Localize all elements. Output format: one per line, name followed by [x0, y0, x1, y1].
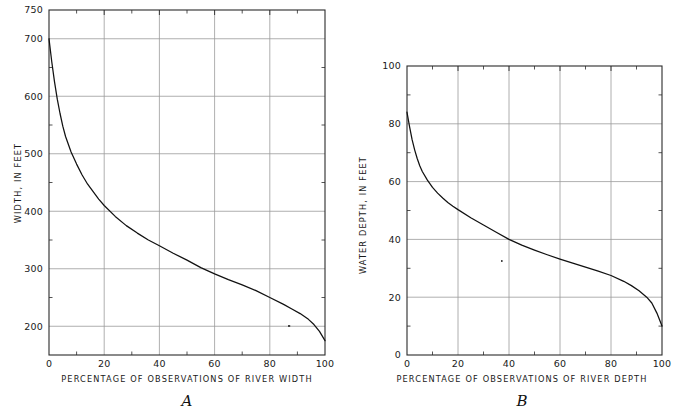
chart-a-canvas: 020406080100 200300400500600700750 PERCE…: [0, 0, 341, 414]
chart-a-frame: [49, 10, 325, 355]
chart-b-svg: 020406080100 020406080100 PERCENTAGE OF …: [341, 0, 682, 414]
x-tick-label: 40: [153, 358, 166, 369]
chart-panel-b: 020406080100 020406080100 PERCENTAGE OF …: [341, 0, 682, 414]
x-tick-label: 100: [653, 358, 672, 369]
chart-panel-a: 020406080100 200300400500600700750 PERCE…: [0, 0, 341, 414]
chart-b-y-tick-labels: 020406080100: [382, 60, 401, 360]
y-tick-label: 40: [389, 234, 402, 245]
x-tick-label: 80: [264, 358, 277, 369]
chart-b-x-tick-labels: 020406080100: [404, 358, 671, 369]
chart-b-y-axis-title: WATER DEPTH, IN FEET: [358, 156, 368, 274]
chart-a-x-tick-labels: 020406080100: [46, 358, 334, 369]
chart-b-panel-letter: B: [515, 392, 527, 410]
chart-b-x-axis-title: PERCENTAGE OF OBSERVATIONS OF RIVER DEPT…: [396, 374, 647, 384]
y-tick-label: 60: [389, 176, 402, 187]
y-tick-label: 400: [24, 206, 43, 217]
chart-b-frame: [407, 66, 662, 355]
chart-a-svg: 020406080100 200300400500600700750 PERCE…: [0, 0, 341, 414]
chart-a-x-axis-title: PERCENTAGE OF OBSERVATIONS OF RIVER WIDT…: [61, 374, 313, 384]
chart-a-curve: [49, 39, 325, 341]
chart-a-ticks: [49, 10, 325, 355]
y-tick-label: 700: [24, 33, 43, 44]
x-tick-label: 60: [554, 358, 567, 369]
y-tick-label: 600: [24, 91, 43, 102]
y-tick-label: 750: [24, 4, 43, 15]
x-tick-label: 20: [98, 358, 111, 369]
y-tick-label: 0: [395, 349, 401, 360]
chart-a-panel-letter: A: [180, 392, 193, 410]
y-tick-label: 20: [389, 292, 402, 303]
chart-b-gridlines: [407, 66, 662, 355]
x-tick-label: 40: [503, 358, 516, 369]
chart-b-ticks: [407, 66, 662, 355]
figure-container: 020406080100 200300400500600700750 PERCE…: [0, 0, 682, 414]
x-tick-label: 20: [452, 358, 465, 369]
x-tick-label: 60: [208, 358, 221, 369]
chart-b-canvas: 020406080100 020406080100 PERCENTAGE OF …: [341, 0, 682, 414]
chart-b-artifact-speck: [501, 260, 503, 262]
chart-a-y-tick-labels: 200300400500600700750: [24, 4, 43, 331]
chart-a-y-axis-title: WIDTH, IN FEET: [13, 143, 23, 223]
chart-a-gridlines: [49, 10, 325, 355]
x-tick-label: 0: [46, 358, 52, 369]
y-tick-label: 80: [389, 118, 402, 129]
y-tick-label: 100: [382, 60, 401, 71]
y-tick-label: 200: [24, 321, 43, 332]
x-tick-label: 100: [316, 358, 335, 369]
chart-a-artifact-speck: [288, 325, 290, 327]
chart-b-curve: [407, 112, 662, 326]
x-tick-label: 80: [605, 358, 618, 369]
y-tick-label: 300: [24, 263, 43, 274]
x-tick-label: 0: [404, 358, 410, 369]
y-tick-label: 500: [24, 148, 43, 159]
